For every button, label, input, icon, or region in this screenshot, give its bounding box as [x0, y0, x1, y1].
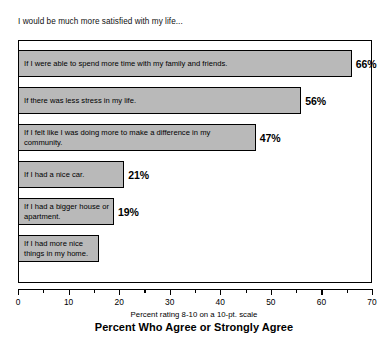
- axis-minor-tick: [144, 289, 145, 293]
- bar: If I had more nice things in my home.: [18, 235, 99, 262]
- bar-value-label: 66%: [356, 50, 377, 77]
- axis-tick-label: 30: [165, 297, 174, 307]
- x-axis: 010203040506070: [18, 289, 372, 290]
- axis-major-tick: [18, 289, 19, 295]
- x-axis-caption: Percent rating 8-10 on a 10-pt. scale: [0, 310, 388, 319]
- bar: If I felt like I was doing more to make …: [18, 124, 256, 151]
- axis-major-tick: [372, 289, 373, 295]
- bar-category-label: If I had more nice things in my home.: [19, 239, 98, 257]
- axis-minor-tick: [43, 289, 44, 293]
- chart-container: I would be much more satisfied with my l…: [0, 0, 388, 339]
- axis-tick-label: 50: [266, 297, 275, 307]
- bar-category-label: If I were able to spend more time with m…: [19, 59, 231, 68]
- axis-major-tick: [170, 289, 171, 295]
- axis-major-tick: [271, 289, 272, 295]
- bar-value-label: 21%: [128, 161, 149, 188]
- axis-tick-label: 70: [367, 297, 376, 307]
- bar-category-label: If there was less stress in my life.: [19, 96, 140, 105]
- axis-tick-label: 10: [64, 297, 73, 307]
- axis-major-tick: [119, 289, 120, 295]
- bars-layer: If I were able to spend more time with m…: [18, 40, 372, 283]
- axis-major-tick: [69, 289, 70, 295]
- axis-minor-tick: [347, 289, 348, 293]
- question-statement: I would be much more satisfied with my l…: [18, 17, 183, 27]
- bar-category-label: If I felt like I was doing more to make …: [19, 128, 255, 146]
- axis-minor-tick: [296, 289, 297, 293]
- bar-value-label: 19%: [118, 198, 139, 225]
- axis-minor-tick: [246, 289, 247, 293]
- axis-minor-tick: [195, 289, 196, 293]
- bar: If there was less stress in my life.: [18, 87, 301, 114]
- axis-tick-label: 0: [16, 297, 21, 307]
- axis-major-tick: [220, 289, 221, 295]
- bar-category-label: If I had a nice car.: [19, 170, 88, 179]
- bar: If I had a bigger house or apartment.: [18, 198, 114, 225]
- bar: If I had a nice car.: [18, 161, 124, 188]
- axis-major-tick: [321, 289, 322, 295]
- chart-title: Percent Who Agree or Strongly Agree: [0, 321, 388, 333]
- bar-value-label: 56%: [305, 87, 326, 114]
- bar-value-label: 47%: [260, 124, 281, 151]
- axis-tick-label: 40: [216, 297, 225, 307]
- bar-category-label: If I had a bigger house or apartment.: [19, 202, 113, 220]
- axis-minor-tick: [94, 289, 95, 293]
- axis-tick-label: 20: [114, 297, 123, 307]
- axis-tick-label: 60: [317, 297, 326, 307]
- bar: If I were able to spend more time with m…: [18, 50, 352, 77]
